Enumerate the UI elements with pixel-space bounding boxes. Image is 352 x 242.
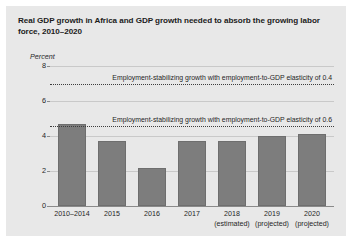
bar-2015	[98, 141, 125, 206]
xlabel-slot: 2010–2014	[52, 209, 92, 229]
reference-line-06-dash	[50, 126, 334, 127]
bar-2010-2014	[58, 124, 85, 206]
xlabel-slot: 2016	[132, 209, 172, 229]
xlabel-sub: (projected)	[252, 219, 292, 229]
xlabel-main: 2010–2014	[54, 210, 90, 218]
bar-slot	[172, 66, 212, 206]
reference-line-04-dash	[50, 84, 334, 85]
xlabel-main: 2017	[184, 210, 200, 218]
chart-title: Real GDP growth in Africa and GDP growth…	[18, 16, 334, 37]
xlabel-slot: 2018 (estimated)	[212, 209, 252, 229]
bar-2016	[138, 168, 165, 207]
y-axis-unit-label: Percent	[30, 52, 55, 61]
ytick-label-0: 0	[42, 202, 46, 209]
ytick-label-2: 2	[42, 167, 46, 174]
bar-2020-projected	[298, 134, 325, 206]
bar-2017	[178, 141, 205, 206]
xlabel-slot: 2015	[92, 209, 132, 229]
reference-line-04-label: Employment-stabilizing growth with emplo…	[112, 75, 332, 82]
xlabel-main: 2015	[104, 210, 120, 218]
xlabel-main: 2016	[144, 210, 160, 218]
xlabel-main: 2019	[264, 210, 280, 218]
xlabel-sub: (projected)	[292, 219, 332, 229]
bar-slot	[292, 66, 332, 206]
bar-slot	[132, 66, 172, 206]
xlabel-slot: 2019 (projected)	[252, 209, 292, 229]
x-axis-line	[50, 206, 334, 207]
bar-2018-estimated	[218, 141, 245, 206]
xlabel-sub: (estimated)	[212, 219, 252, 229]
bar-slot	[52, 66, 92, 206]
ytick-label-4: 4	[42, 132, 46, 139]
xlabel-slot: 2020 (projected)	[292, 209, 332, 229]
bar-slot	[252, 66, 292, 206]
plot-area: 8 6 4 2 0	[50, 66, 334, 206]
ytick-mark-0	[47, 206, 50, 207]
reference-line-06-label: Employment-stabilizing growth with emplo…	[112, 117, 332, 124]
chart-figure: Real GDP growth in Africa and GDP growth…	[6, 6, 346, 236]
bar-series	[50, 66, 334, 206]
bar-slot	[92, 66, 132, 206]
x-axis-labels: 2010–2014 2015 2016 2017 2018 (estimated…	[50, 209, 334, 229]
xlabel-main: 2020	[304, 210, 320, 218]
xlabel-slot: 2017	[172, 209, 212, 229]
bar-slot	[212, 66, 252, 206]
ytick-label-8: 8	[42, 62, 46, 69]
bar-2019-projected	[258, 136, 285, 206]
ytick-label-6: 6	[42, 97, 46, 104]
xlabel-main: 2018	[224, 210, 240, 218]
